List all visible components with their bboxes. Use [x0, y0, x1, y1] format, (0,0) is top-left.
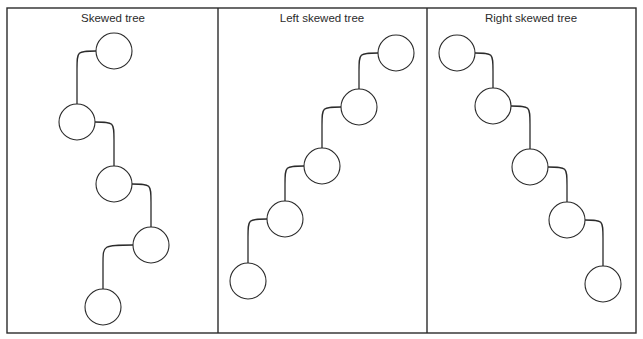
tree-edge — [475, 53, 493, 88]
tree-node — [96, 33, 132, 69]
tree-node — [133, 227, 169, 263]
tree-node — [304, 148, 340, 184]
tree-edge — [77, 51, 96, 104]
tree-node — [585, 266, 621, 302]
panel-left-skewed-tree — [230, 35, 414, 299]
tree-edge — [511, 106, 530, 149]
tree-node — [475, 88, 511, 124]
skewed-trees-diagram — [0, 0, 643, 339]
tree-node — [230, 263, 266, 299]
tree-edge — [322, 107, 341, 148]
tree-node — [341, 89, 377, 125]
panel-right-skewed-tree — [439, 35, 621, 302]
tree-node — [96, 166, 132, 202]
panel-title-right-skewed-tree: Right skewed tree — [485, 12, 577, 24]
tree-edge — [132, 184, 151, 227]
tree-edge — [103, 245, 133, 289]
tree-node — [439, 35, 475, 71]
panel-title-left-skewed-tree: Left skewed tree — [280, 12, 364, 24]
tree-edge — [359, 53, 378, 89]
tree-node — [85, 289, 121, 325]
tree-node — [512, 149, 548, 185]
tree-node — [267, 201, 303, 237]
tree-node — [378, 35, 414, 71]
tree-edge — [585, 220, 603, 266]
tree-edge — [95, 122, 114, 166]
tree-edge — [548, 167, 567, 202]
tree-node — [59, 104, 95, 140]
tree-node — [549, 202, 585, 238]
panel-title-skewed-tree: Skewed tree — [81, 12, 145, 24]
tree-edge — [248, 219, 267, 263]
tree-edge — [285, 166, 304, 201]
panel-skewed-tree — [59, 33, 169, 325]
